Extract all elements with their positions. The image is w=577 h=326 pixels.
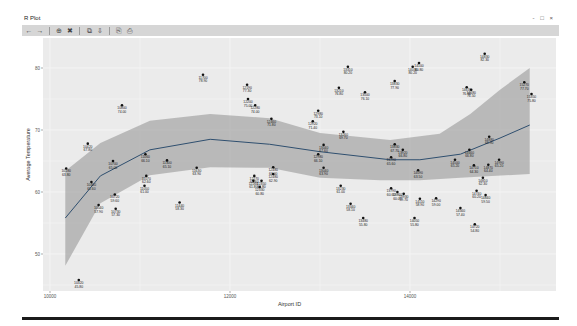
- data-point: 1106066.10: [141, 153, 150, 163]
- point-label-temp: 67.60: [319, 149, 328, 153]
- data-point: 1130065.10: [162, 159, 171, 169]
- point-label-temp: 76.80: [335, 92, 344, 96]
- point-label-temp: 61.60: [87, 187, 96, 191]
- point-label-temp: 77.70: [520, 87, 529, 91]
- data-point: 1403080.20: [408, 65, 418, 75]
- point-label-temp: 69.70: [339, 136, 348, 140]
- data-point: 1429059.00: [431, 197, 441, 207]
- data-point: 1334058.10: [346, 202, 356, 212]
- data-point: 1107062.60: [142, 175, 151, 185]
- point-label-temp: 55.80: [410, 223, 419, 227]
- point-label-temp: 76.10: [361, 97, 370, 101]
- data-point: 1042067.80: [83, 142, 93, 152]
- data-point: 1405055.80: [410, 217, 420, 227]
- point-label-temp: 59.70: [399, 198, 408, 202]
- data-point: 1535075.80: [527, 93, 537, 103]
- point-label-temp: 62.90: [269, 179, 278, 183]
- data-point: 1456057.40: [456, 207, 466, 217]
- point-label-temp: 59.60: [111, 199, 120, 203]
- point-label-temp: 57.90: [94, 210, 103, 214]
- point-label-temp: 74.00: [251, 110, 260, 114]
- data-point: 1393059.70: [399, 193, 409, 203]
- data-point: 1248062.90: [268, 173, 278, 183]
- point-label-temp: 64.30: [470, 170, 479, 174]
- point-label-temp: 75.80: [527, 99, 536, 103]
- point-label-temp: 77.30: [243, 89, 252, 93]
- data-point: 1392066.80: [398, 149, 408, 159]
- data-point: 1326069.70: [339, 131, 349, 141]
- point-label-temp: 58.10: [346, 208, 355, 212]
- data-point: 1483082.30: [480, 52, 490, 62]
- point-label-temp: 63.50: [414, 175, 423, 179]
- data-point: 1348055.80: [358, 217, 368, 227]
- point-label-temp: 60.20: [472, 195, 481, 199]
- point-label-temp: 57.30: [111, 213, 120, 217]
- point-label-temp: 77.90: [390, 86, 399, 90]
- point-label-temp: 61.00: [336, 190, 345, 194]
- point-label-temp: 73.10: [314, 115, 323, 119]
- data-point: 1228074.00: [250, 104, 260, 114]
- data-point: 1468076.50: [466, 88, 476, 98]
- y-tick-label: 50: [35, 252, 41, 257]
- point-label-temp: 58.30: [175, 207, 184, 211]
- point-label-temp: 65.60: [387, 162, 396, 166]
- point-label-temp: 66.10: [141, 159, 150, 163]
- point-label-temp: 68.90: [485, 141, 494, 145]
- point-label-temp: 80.20: [344, 71, 353, 75]
- point-label-temp: 63.90: [319, 172, 328, 176]
- data-point: 1144058.30: [175, 201, 184, 211]
- data-point: 1072059.60: [110, 193, 120, 203]
- point-label-temp: 63.90: [192, 172, 201, 176]
- point-label-temp: 62.60: [142, 180, 151, 184]
- data-point: 1105061.00: [140, 185, 149, 195]
- data-point: 1046061.60: [87, 181, 97, 191]
- data-point: 1411058.90: [415, 198, 424, 208]
- point-label-temp: 71.40: [309, 126, 318, 130]
- data-point: 1471064.30: [469, 164, 479, 174]
- point-label-temp: 74.00: [118, 110, 127, 114]
- data-point: 1484059.50: [481, 194, 491, 204]
- data-point: 1018063.80: [61, 167, 71, 177]
- data-point: 1080074.00: [117, 104, 127, 114]
- x-tick-label: 14000: [404, 294, 417, 299]
- y-tick-label: 70: [35, 128, 41, 133]
- data-point: 1032045.80: [74, 279, 84, 289]
- data-point: 1304063.90: [319, 167, 329, 177]
- point-label-temp: 64.40: [484, 169, 493, 173]
- data-point: 1466066.80: [465, 149, 475, 159]
- point-label-temp: 66.80: [465, 154, 474, 158]
- data-point: 1527077.70: [520, 81, 530, 91]
- point-label-temp: 65.10: [163, 165, 172, 169]
- point-label-temp: 80.20: [408, 71, 417, 75]
- point-label-temp: 65.00: [109, 166, 118, 170]
- data-point: 1472054.80: [470, 223, 480, 233]
- y-tick-label: 60: [35, 190, 41, 195]
- point-label-temp: 62.30: [479, 182, 488, 186]
- point-label-temp: 76.50: [467, 94, 476, 98]
- point-label-temp: 58.90: [416, 203, 425, 207]
- data-point: 1246071.80: [267, 118, 277, 128]
- data-point: 1331080.20: [343, 65, 353, 75]
- data-point: 1488068.90: [484, 136, 494, 146]
- x-tick-label: 12000: [224, 294, 237, 299]
- y-tick-label: 80: [35, 66, 41, 71]
- data-point: 1070065.00: [108, 160, 118, 170]
- data-point: 1323061.00: [336, 185, 346, 195]
- point-label-temp: 78.90: [199, 79, 208, 83]
- point-label-temp: 82.30: [480, 58, 489, 62]
- x-tick-label: 10000: [44, 294, 57, 299]
- data-point: 1054057.90: [94, 204, 104, 214]
- data-point: 1409063.50: [413, 169, 423, 179]
- data-point: 1304067.60: [319, 144, 329, 154]
- data-point: 1321076.80: [334, 87, 344, 97]
- horizontal-scrollbar[interactable]: [22, 317, 559, 320]
- data-point: 1292071.40: [308, 120, 318, 130]
- point-label-temp: 55.80: [359, 223, 368, 227]
- point-label-temp: 60.80: [255, 192, 264, 196]
- x-axis-label: Airport ID: [278, 301, 301, 307]
- point-label-temp: 57.40: [456, 213, 465, 217]
- y-axis-label: Average Temperature: [25, 128, 31, 181]
- data-point: 1350076.10: [360, 91, 370, 101]
- data-point: 1073057.30: [111, 207, 121, 217]
- point-label-temp: 54.80: [471, 229, 480, 233]
